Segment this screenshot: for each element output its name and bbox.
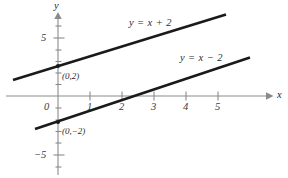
x-tick-label-5: 5 xyxy=(215,102,220,113)
y-tick-label-minus-5: −5 xyxy=(34,150,46,161)
graph-figure: y x 5 0 −5 1 2 3 4 5 y = x + 2 y = x − 2… xyxy=(0,0,288,178)
equation-label-upper: y = x + 2 xyxy=(129,18,172,29)
point-label-0-2: (0,2) xyxy=(62,72,79,81)
x-tick-label-1: 1 xyxy=(87,102,92,113)
y-tick-label-5: 5 xyxy=(41,33,46,44)
x-tick-label-3: 3 xyxy=(151,102,156,113)
y-axis-label: y xyxy=(54,1,59,12)
y-axis xyxy=(54,12,61,175)
x-tick-label-4: 4 xyxy=(183,102,188,113)
point-label-0-minus-2: (0,−2) xyxy=(62,127,85,136)
line-y-equals-x-plus-2 xyxy=(13,15,226,81)
equation-label-lower: y = x − 2 xyxy=(180,53,223,64)
x-axis-label: x xyxy=(277,90,282,101)
y-tick-label-0: 0 xyxy=(44,102,49,113)
x-tick-label-2: 2 xyxy=(119,102,124,113)
